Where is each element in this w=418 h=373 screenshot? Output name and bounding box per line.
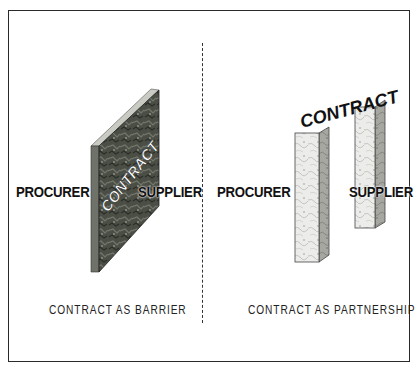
pillars-contract-text: CONTRACT (298, 86, 403, 132)
right-supplier-label: SUPPLIER (349, 183, 413, 200)
contract-pillar-supplier (355, 100, 385, 228)
contract-wall: CONTRACT (91, 89, 163, 272)
barrier-caption: CONTRACT AS BARRIER (49, 302, 187, 317)
contract-pillar-procurer (295, 127, 329, 262)
partnership-caption: CONTRACT AS PARTNERSHIP (248, 302, 415, 317)
right-procurer-label: PROCURER (217, 183, 290, 200)
left-procurer-label: PROCURER (16, 183, 89, 200)
left-supplier-label: SUPPLIER (138, 183, 202, 200)
